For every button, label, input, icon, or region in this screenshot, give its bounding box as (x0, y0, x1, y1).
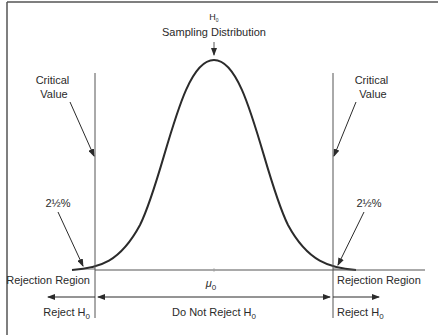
left-critical-arrow (70, 102, 94, 156)
right-rejection-label: Rejection Region (337, 274, 421, 286)
reject-left-label: Reject H0 (43, 306, 90, 321)
right-tail-label: 2½% (356, 197, 381, 209)
left-critical-label: Critical Value (36, 74, 73, 100)
reject-right-label: Reject H0 (337, 306, 384, 321)
left-tail-arrow (58, 212, 83, 266)
right-tail-arrow (338, 212, 364, 265)
sampling-distribution-label: Sampling Distribution (162, 26, 266, 38)
do-not-reject-label: Do Not Reject H0 (172, 306, 256, 321)
right-critical-label: Critical Value (355, 74, 392, 100)
mu0-label: μ0 (205, 277, 217, 292)
h0-label: H0 (209, 12, 219, 23)
hypothesis-test-diagram: H0 Sampling Distribution Critical Value … (0, 0, 438, 335)
left-rejection-label: Rejection Region (6, 274, 90, 286)
bell-curve (72, 60, 356, 270)
right-critical-arrow (334, 102, 356, 156)
left-tail-label: 2½% (45, 197, 70, 209)
